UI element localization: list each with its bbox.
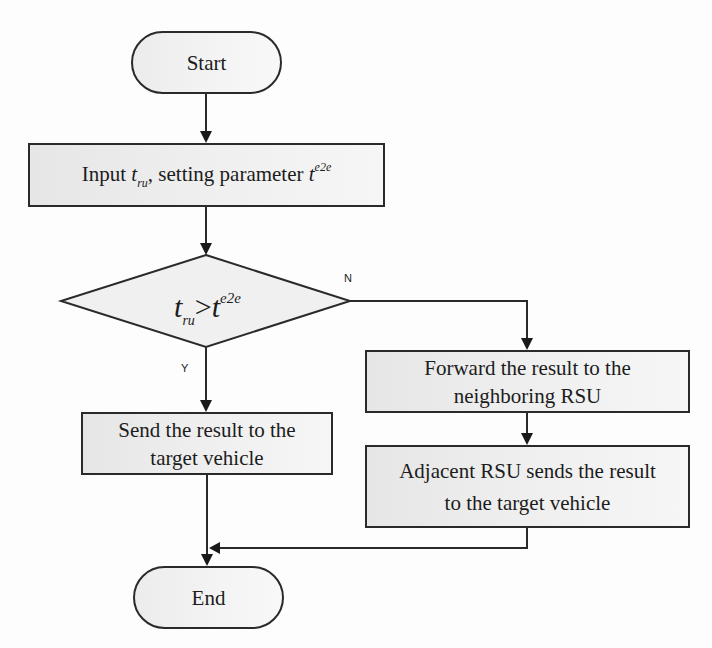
input-middle-text: , setting parameter [148, 162, 309, 186]
var-t-ru: tru [131, 162, 148, 186]
arrow-decision-to-forward [350, 301, 533, 350]
input-label: Input tru, setting parameter te2e [82, 153, 332, 197]
arrow-forward-to-adjacent [521, 412, 533, 445]
arrow-decision-to-send [200, 347, 212, 412]
edge-label-no: N [344, 272, 352, 284]
end-terminator: End [133, 566, 284, 629]
forward-line-2: neighboring RSU [454, 382, 602, 410]
send-process-box: Send the result to the target vehicle [81, 412, 333, 475]
end-label: End [192, 584, 226, 612]
adjacent-process-box: Adjacent RSU sends the result to the tar… [365, 445, 690, 528]
arrow-start-to-input [200, 93, 212, 143]
arrow-input-to-decision [200, 206, 212, 255]
adjacent-line-1: Adjacent RSU sends the result [399, 455, 656, 487]
flowchart-canvas: Start Input tru, setting parameter te2e … [0, 0, 712, 648]
arrow-adjacent-to-end [209, 527, 527, 554]
send-line-2: target vehicle [150, 444, 263, 472]
send-line-1: Send the result to the [118, 416, 295, 444]
decision-condition: tru>te2e [150, 278, 265, 341]
input-process-box: Input tru, setting parameter te2e [28, 143, 385, 207]
start-label: Start [187, 49, 227, 77]
adjacent-line-2: to the target vehicle [445, 487, 611, 519]
flowchart-connectors [0, 0, 712, 648]
arrow-send-to-end [201, 474, 213, 566]
var-t-e2e: te2e [309, 162, 332, 186]
edge-label-yes: Y [181, 362, 188, 374]
forward-line-1: Forward the result to the [424, 354, 630, 382]
forward-process-box: Forward the result to the neighboring RS… [365, 350, 690, 413]
input-prefix: Input [82, 162, 132, 186]
start-terminator: Start [131, 31, 282, 94]
